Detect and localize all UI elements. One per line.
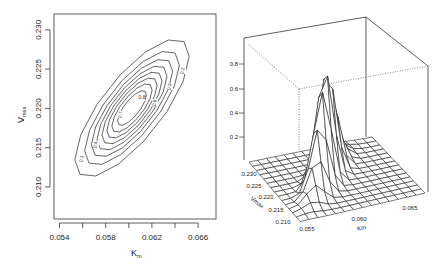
contour-line bbox=[91, 60, 172, 157]
contour-plot: 0.0540.0580.0620.066 0.2100.2150.2200.22… bbox=[16, 14, 216, 259]
vmax-tick-label: 0.220 bbox=[258, 194, 274, 200]
x-tick-label: 0.062 bbox=[142, 233, 163, 242]
km-tick-label: 0.055 bbox=[299, 226, 315, 232]
contour-line bbox=[97, 66, 167, 149]
y-tick-label: 0.225 bbox=[34, 59, 43, 80]
box-edge bbox=[244, 17, 366, 38]
y-tick-label: 0.215 bbox=[34, 137, 43, 158]
x-tick-label: 0.058 bbox=[96, 233, 117, 242]
contour-label: 0.7 bbox=[116, 111, 123, 119]
z-tick-label: 0.6 bbox=[230, 86, 239, 92]
z-tick-label: 0.4 bbox=[230, 110, 239, 116]
x-axis-label: Km bbox=[131, 248, 142, 259]
y-tick-label: 0.220 bbox=[34, 98, 43, 119]
km-tick-label: 0.060 bbox=[351, 216, 367, 222]
hidden-edge bbox=[248, 44, 299, 89]
contour-line bbox=[102, 72, 162, 143]
z-tick-label: 0.2 bbox=[230, 134, 239, 140]
vmax-tick-label: 0.230 bbox=[241, 171, 257, 177]
contour-label: 0.3 bbox=[165, 83, 172, 91]
contour-label: 0.4 bbox=[91, 141, 98, 149]
hidden-edge bbox=[299, 66, 428, 89]
contour-label: 0.2 bbox=[178, 67, 185, 75]
vmax-tick-label: 0.210 bbox=[275, 219, 291, 225]
x-axis-ticks: 0.0540.0580.0620.066 bbox=[49, 223, 208, 242]
y-axis-label: Vmax bbox=[16, 106, 27, 123]
km-axis-label: Km bbox=[357, 224, 367, 231]
vmax-tick-label: 0.215 bbox=[268, 207, 284, 213]
contour-line bbox=[75, 40, 189, 176]
x-tick-label: 0.066 bbox=[188, 233, 209, 242]
figure: 0.0540.0580.0620.066 0.2100.2150.2200.22… bbox=[0, 0, 444, 269]
surface-mesh bbox=[249, 76, 425, 221]
contour-label: 0.8 bbox=[139, 94, 146, 100]
contour-line bbox=[107, 78, 157, 138]
box-edge bbox=[366, 17, 428, 66]
surface-3d-plot: 0.20.40.60.80.2100.2150.2200.2250.230Vma… bbox=[230, 17, 428, 232]
contour-label: 0.6 bbox=[150, 99, 157, 107]
vmax-tick-label: 0.225 bbox=[246, 183, 262, 189]
contour-label: 0.1 bbox=[77, 155, 84, 163]
z-tick-label: 0.8 bbox=[230, 61, 239, 67]
km-tick-label: 0.065 bbox=[402, 205, 418, 211]
y-axis-ticks: 0.2100.2150.2200.2250.230 bbox=[34, 19, 50, 197]
y-tick-label: 0.210 bbox=[34, 176, 43, 197]
contour-lines bbox=[75, 40, 189, 176]
y-tick-label: 0.230 bbox=[34, 19, 43, 40]
x-tick-label: 0.054 bbox=[49, 233, 70, 242]
